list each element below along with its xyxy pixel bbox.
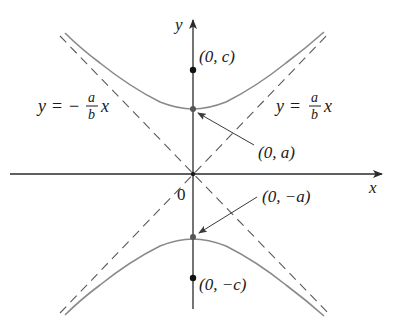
svg-text:a: a [88,90,95,105]
svg-text:a: a [311,90,318,105]
svg-text:x: x [100,96,109,116]
asymptote-positive-slope [60,32,330,313]
focus-bottom-label: (0, −c) [199,275,247,294]
svg-text:b: b [311,107,318,122]
origin-point [191,172,195,176]
svg-text:y: y [274,96,284,116]
svg-text:−: − [69,96,79,116]
svg-text:=: = [290,96,300,116]
vertex-bottom-point [190,234,196,240]
focus-top-label: (0, c) [199,47,235,66]
vertex-top-label: (0, a) [258,143,295,162]
vertex-top-pointer [198,113,254,145]
vertex-bottom-pointer [199,197,257,233]
svg-text:x: x [323,96,332,116]
focus-bottom-point [190,275,196,281]
svg-text:=: = [52,96,62,116]
y-axis-label: y [173,15,183,34]
svg-text:b: b [88,107,95,122]
asymptote-negative-slope [60,36,330,315]
hyperbola-diagram: y x 0 (0, c) (0, a) (0, −a) (0, −c) y = … [0,0,395,328]
asymptote-negative-equation: y = − a b x [36,90,109,122]
x-axis-label: x [368,178,377,197]
vertex-top-point [190,106,196,112]
vertex-bottom-label: (0, −a) [262,187,311,206]
asymptote-positive-equation: y = a b x [274,90,332,122]
svg-text:y: y [36,96,46,116]
origin-label: 0 [177,185,186,204]
focus-top-point [190,67,196,73]
